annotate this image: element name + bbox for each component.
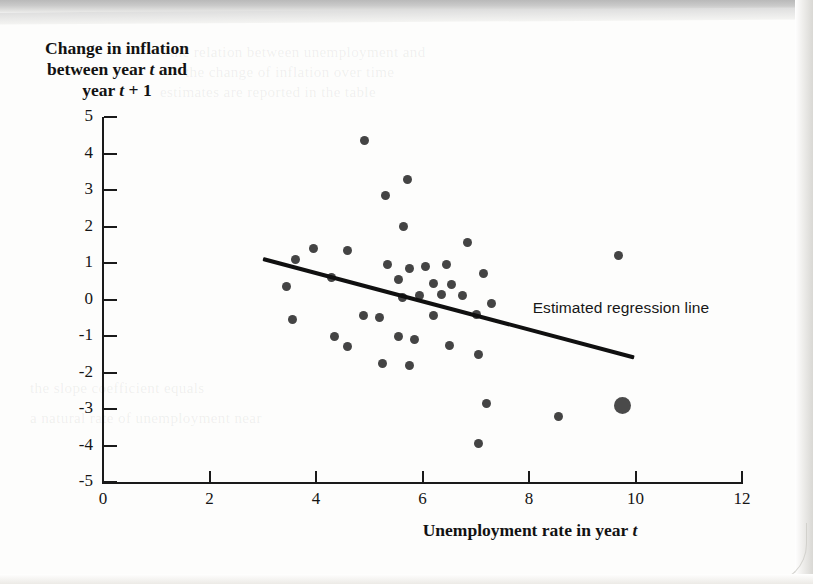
- data-point: [442, 260, 451, 269]
- data-point: [330, 332, 339, 341]
- data-point: [447, 280, 456, 289]
- y-axis-tick-label: -2: [61, 362, 93, 382]
- y-axis-tick: [104, 226, 117, 228]
- data-point: [381, 191, 390, 200]
- data-point: [378, 359, 387, 368]
- data-point: [399, 222, 408, 231]
- data-point: [343, 342, 352, 351]
- x-axis-tick-label: 10: [621, 489, 651, 509]
- y-axis-tick: [104, 481, 117, 483]
- y-axis-tick: [104, 299, 117, 301]
- data-point: [474, 439, 483, 448]
- data-point: [405, 264, 414, 273]
- data-point: [458, 291, 467, 300]
- y-axis-tick: [104, 262, 117, 264]
- data-point: [479, 269, 488, 278]
- y-axis-tick: [104, 372, 117, 374]
- y-axis-tick: [104, 153, 117, 155]
- data-point: [375, 313, 384, 322]
- data-point: [487, 299, 496, 308]
- y-axis-tick-label: -4: [61, 435, 93, 455]
- x-axis-tick-label: 12: [727, 489, 757, 509]
- y-axis-tick-label: 0: [61, 289, 93, 309]
- data-point: [383, 260, 392, 269]
- y-axis-tick: [104, 445, 117, 447]
- y-axis-tick: [104, 408, 117, 410]
- y-axis-title-line-1: Change in inflation: [45, 38, 189, 58]
- x-axis-tick: [741, 471, 743, 483]
- y-axis-tick-label: -3: [61, 398, 93, 418]
- x-axis-tick-label: 8: [514, 489, 544, 509]
- x-axis-tick-label: 0: [88, 489, 118, 509]
- data-point: [482, 399, 491, 408]
- y-axis-tick-label: 2: [61, 216, 93, 236]
- regression-line-annotation: Estimated regression line: [533, 299, 710, 317]
- y-axis-tick: [104, 335, 117, 337]
- data-point: [359, 311, 368, 320]
- data-point: [309, 244, 318, 253]
- data-point: [614, 251, 623, 260]
- y-axis-tick-label: 1: [61, 252, 93, 272]
- x-axis-tick-label: 6: [408, 489, 438, 509]
- y-axis-tick-label: 5: [61, 106, 93, 126]
- highlighted-data-point: [614, 397, 631, 414]
- y-axis-title: Change in inflation between year t and y…: [8, 38, 226, 101]
- data-point: [421, 262, 430, 271]
- x-axis-tick: [209, 471, 211, 483]
- data-point: [463, 238, 472, 247]
- data-point: [429, 311, 438, 320]
- y-axis-tick-label: 4: [61, 143, 93, 163]
- x-axis-tick: [422, 471, 424, 483]
- scatter-plot-figure: Change in inflation between year t and y…: [0, 0, 813, 584]
- x-axis-tick: [528, 471, 530, 483]
- data-point: [410, 335, 419, 344]
- y-axis-line: [102, 117, 104, 484]
- data-point: [343, 246, 352, 255]
- data-point: [437, 290, 446, 299]
- y-axis-tick-label: -1: [61, 325, 93, 345]
- data-point: [474, 350, 483, 359]
- y-axis-tick-label: 3: [61, 179, 93, 199]
- data-point: [282, 282, 291, 291]
- data-point: [394, 275, 403, 284]
- y-axis-tick: [104, 116, 117, 118]
- data-point: [403, 175, 412, 184]
- y-axis-tick: [104, 189, 117, 191]
- data-point: [554, 412, 563, 421]
- x-axis-tick-label: 4: [301, 489, 331, 509]
- scanned-figure-page: the relation between unemployment and th…: [0, 0, 813, 584]
- data-point: [429, 279, 438, 288]
- data-point: [445, 341, 454, 350]
- x-axis-tick: [635, 471, 637, 483]
- x-axis-title: Unemployment rate in year t: [300, 520, 760, 541]
- data-point: [360, 136, 369, 145]
- x-axis-tick-label: 2: [195, 489, 225, 509]
- data-point: [394, 332, 403, 341]
- data-point: [405, 361, 414, 370]
- data-point: [288, 315, 297, 324]
- data-point: [291, 255, 300, 264]
- x-axis-tick: [315, 471, 317, 483]
- y-axis-tick-label: -5: [61, 471, 93, 491]
